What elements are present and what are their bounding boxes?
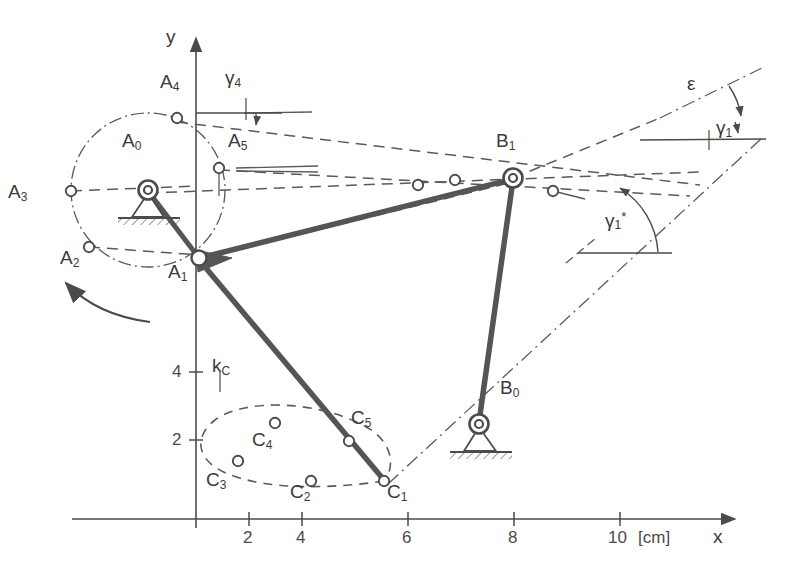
xtick-6: 6 xyxy=(402,528,411,548)
joint-a4 xyxy=(172,113,182,123)
diagram-canvas: A0 A1 A2 A3 A4 A5 B0 B1 C1 C2 C3 C4 C5 k… xyxy=(0,0,788,583)
xtick-10: 10 xyxy=(608,528,627,548)
axis-name-x: x xyxy=(713,526,723,548)
label-point-B0: B0 xyxy=(500,378,519,399)
label-curve-kc: kC xyxy=(212,356,230,377)
label-point-C1: C1 xyxy=(387,482,407,503)
label-point-A2: A2 xyxy=(60,248,79,269)
label-point-C3: C3 xyxy=(206,470,226,491)
axis-x xyxy=(72,512,735,526)
label-point-C5: C5 xyxy=(351,408,371,429)
rotation-direction-arrow xyxy=(66,283,150,322)
joint-c5 xyxy=(344,436,354,446)
joint-a2 xyxy=(84,242,94,252)
label-point-A0: A0 xyxy=(122,131,141,152)
line-gamma1star-ray xyxy=(388,138,762,484)
axis-name-y: y xyxy=(166,26,176,48)
label-angle-gamma4: γ4 xyxy=(225,68,241,89)
label-angle-epsilon: ε xyxy=(687,74,695,93)
label-angle-gamma1: γ1 xyxy=(716,118,732,139)
angle-epsilon-gamma1 xyxy=(640,68,766,150)
label-point-A4: A4 xyxy=(160,72,179,93)
xtick-2: 2 xyxy=(243,528,252,548)
label-point-A1: A1 xyxy=(168,262,187,283)
xtick-8: 8 xyxy=(508,528,517,548)
joint-a5 xyxy=(214,163,224,173)
ytick-2: 2 xyxy=(172,430,181,450)
axis-y xyxy=(189,38,203,528)
joint-b-aux-1 xyxy=(450,175,460,185)
axis-unit-label: [cm] xyxy=(638,528,670,548)
xtick-4: 4 xyxy=(296,528,305,548)
link-a1-b1 xyxy=(200,179,513,258)
joint-b-aux-2 xyxy=(413,180,423,190)
joint-a3 xyxy=(66,186,76,196)
joint-c3 xyxy=(233,456,243,466)
label-point-C4: C4 xyxy=(252,430,272,451)
label-point-C2: C2 xyxy=(290,482,310,503)
joint-c4 xyxy=(270,418,280,428)
ground-pivot-b0 xyxy=(450,415,512,460)
ytick-4: 4 xyxy=(172,362,181,382)
dashed-construction-rays xyxy=(71,118,700,259)
joint-b1 xyxy=(504,169,523,188)
label-angle-gamma1-star: γ1* xyxy=(605,210,626,231)
joint-b-aux-3 xyxy=(548,186,558,196)
angle-gamma4 xyxy=(196,98,282,125)
label-point-A5: A5 xyxy=(228,131,247,152)
label-point-B1: B1 xyxy=(496,131,515,152)
label-point-A3: A3 xyxy=(8,182,27,203)
